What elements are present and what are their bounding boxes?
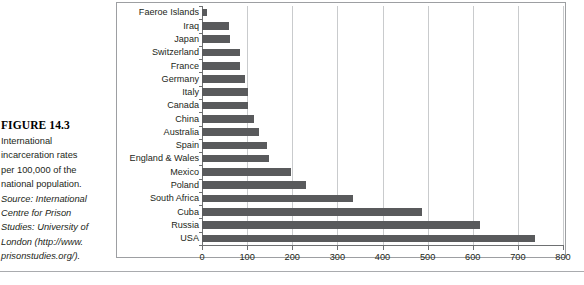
bar <box>202 9 207 17</box>
x-tick-label: 400 <box>375 251 390 263</box>
caption-line: national population. <box>1 177 111 191</box>
bar <box>202 142 267 150</box>
x-tick <box>337 246 338 250</box>
category-label: South Africa <box>118 193 199 203</box>
x-tick <box>247 246 248 250</box>
bar <box>202 195 353 203</box>
bar-row <box>202 6 207 19</box>
x-tick <box>383 246 384 250</box>
category-label: USA <box>118 233 199 243</box>
bar-row <box>202 179 306 192</box>
x-tick <box>428 246 429 250</box>
bar <box>202 49 240 57</box>
caption-line: incarceration rates <box>1 148 111 162</box>
x-tick-label: 700 <box>510 251 525 263</box>
category-label: England & Wales <box>118 153 199 163</box>
bar <box>202 208 422 216</box>
x-tick-label: 100 <box>239 251 254 263</box>
bar <box>202 181 306 189</box>
bar <box>202 35 230 43</box>
caption-line: per 100,000 of the <box>1 163 111 177</box>
figure-number: FIGURE 14.3 <box>1 118 111 133</box>
category-label: Russia <box>118 220 199 230</box>
x-tick-label: 0 <box>199 251 204 263</box>
bar-row <box>202 46 240 59</box>
bar <box>202 115 254 123</box>
figure-bottom-rule <box>0 271 584 272</box>
bar-row <box>202 112 254 125</box>
bar <box>202 102 248 110</box>
category-label: Faeroe Islands <box>118 7 199 17</box>
bar <box>202 75 245 83</box>
category-label: Switzerland <box>118 47 199 57</box>
bar-row <box>202 139 267 152</box>
x-tick <box>473 246 474 250</box>
plot-area <box>202 6 563 245</box>
x-tick <box>202 246 203 250</box>
x-axis-ticks <box>202 246 564 250</box>
category-label: Poland <box>118 180 199 190</box>
x-tick-label: 300 <box>330 251 345 263</box>
bar-row <box>202 99 248 112</box>
category-label: Italy <box>118 87 199 97</box>
caption-line: Source: International <box>1 192 111 206</box>
bar-row <box>202 165 291 178</box>
x-tick <box>563 246 564 250</box>
category-label: Canada <box>118 100 199 110</box>
bar <box>202 88 248 96</box>
caption-line: Centre for Prison <box>1 206 111 220</box>
category-label: Spain <box>118 140 199 150</box>
bar-row <box>202 72 245 85</box>
category-label: Iraq <box>118 21 199 31</box>
bar <box>202 62 240 70</box>
x-tick <box>292 246 293 250</box>
bar <box>202 128 259 136</box>
bar <box>202 22 229 30</box>
x-axis-tick-labels: 0100200300400500600700800 <box>202 251 564 265</box>
category-label: China <box>118 114 199 124</box>
bar <box>202 155 269 163</box>
category-label: Japan <box>118 34 199 44</box>
caption-line: prisonstudies.org/). <box>1 249 111 263</box>
category-label: Mexico <box>118 167 199 177</box>
bar-row <box>202 86 248 99</box>
caption-line: London (http://www. <box>1 235 111 249</box>
bar-row <box>202 192 353 205</box>
x-tick-label: 500 <box>420 251 435 263</box>
bar <box>202 221 480 229</box>
category-label: Australia <box>118 127 199 137</box>
bar-row <box>202 59 240 72</box>
caption-line: International <box>1 134 111 148</box>
bar-row <box>202 19 229 32</box>
bar-row <box>202 126 259 139</box>
x-tick-label: 200 <box>285 251 300 263</box>
bar-row <box>202 33 230 46</box>
bar <box>202 168 291 176</box>
bar <box>202 235 535 243</box>
figure-caption: FIGURE 14.3 Internationalincarceration r… <box>1 118 111 264</box>
bar-series <box>202 6 563 245</box>
category-label: Germany <box>118 74 199 84</box>
bar-row <box>202 152 269 165</box>
bar-row <box>202 232 535 245</box>
x-tick <box>518 246 519 250</box>
caption-line: Studies: University of <box>1 220 111 234</box>
x-tick-label: 600 <box>465 251 480 263</box>
category-label: Cuba <box>118 207 199 217</box>
bar-row <box>202 218 480 231</box>
x-tick-label: 800 <box>555 251 570 263</box>
caption-body: Internationalincarceration ratesper 100,… <box>1 134 111 264</box>
bar-row <box>202 205 422 218</box>
category-axis-labels: Faeroe IslandsIraqJapanSwitzerlandFrance… <box>118 6 199 245</box>
category-label: France <box>118 61 199 71</box>
